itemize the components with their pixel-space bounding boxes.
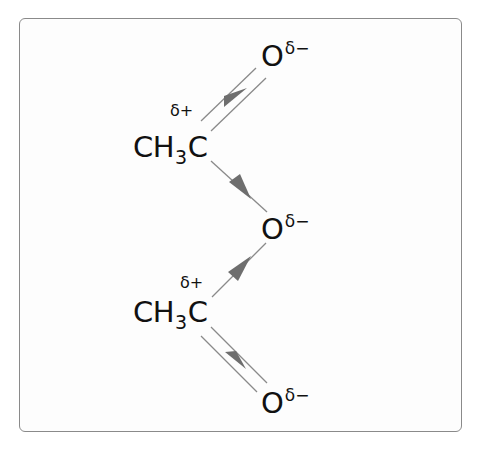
upper-carbon-partial-charge: δ+ xyxy=(170,103,193,119)
group-tail: C xyxy=(188,130,208,164)
lower-single-bond xyxy=(212,243,266,297)
oxygen-partial-charge: δ− xyxy=(285,385,310,405)
oxygen-partial-charge: δ− xyxy=(285,38,310,58)
lower-acetyl-group: CH3C xyxy=(133,298,207,327)
bond-layer xyxy=(0,0,480,450)
group-tail: C xyxy=(188,295,208,329)
upper-single-bond xyxy=(211,161,267,212)
top-oxygen: Oδ− xyxy=(261,42,309,71)
upper-double-bond xyxy=(201,68,266,131)
group-main: CH xyxy=(133,295,174,329)
lower-carbon-partial-charge: δ+ xyxy=(180,275,203,291)
oxygen-symbol: O xyxy=(261,39,284,73)
upper-acetyl-group: CH3C xyxy=(133,133,207,162)
group-main: CH xyxy=(133,130,174,164)
middle-oxygen: Oδ− xyxy=(261,215,309,244)
oxygen-symbol: O xyxy=(261,386,284,420)
diagram-canvas: δ+ δ+ CH3C CH3C Oδ− Oδ− Oδ− xyxy=(0,0,480,450)
oxygen-symbol: O xyxy=(261,212,284,246)
lower-double-bond xyxy=(201,327,267,392)
group-subscript: 3 xyxy=(175,146,187,168)
bottom-oxygen: Oδ− xyxy=(261,389,309,418)
group-subscript: 3 xyxy=(175,311,187,333)
dipole-arrow-icon xyxy=(229,174,251,199)
bond-line xyxy=(211,78,266,131)
dipole-arrow-icon xyxy=(224,88,247,107)
dipole-arrow-icon xyxy=(225,351,246,369)
oxygen-partial-charge: δ− xyxy=(285,211,310,231)
